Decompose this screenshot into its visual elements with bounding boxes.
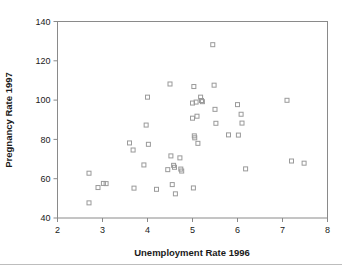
y-tick-label: 60 — [40, 174, 50, 184]
data-point-marker — [191, 186, 195, 190]
data-point-marker — [214, 121, 218, 125]
data-point-marker — [146, 142, 150, 146]
x-tick-label: 8 — [325, 225, 330, 235]
data-point-marker — [244, 167, 248, 171]
chart-canvas: 406080100120140 2345678 Unemployment Rat… — [0, 0, 342, 268]
data-point-marker — [195, 114, 199, 118]
data-point-marker — [87, 171, 91, 175]
data-points-layer — [87, 43, 306, 205]
data-point-marker — [192, 85, 196, 89]
data-point-marker — [285, 98, 289, 102]
data-point-marker — [178, 156, 182, 160]
x-tick-label: 3 — [100, 225, 105, 235]
data-point-marker — [128, 141, 132, 145]
x-tick-label: 5 — [190, 225, 195, 235]
y-tick-label: 140 — [35, 17, 50, 27]
data-point-marker — [168, 82, 172, 86]
x-tick-label: 2 — [55, 225, 60, 235]
y-tick-label: 100 — [35, 95, 50, 105]
x-axis-title: Unemployment Rate 1996 — [134, 247, 250, 258]
data-point-marker — [212, 83, 216, 87]
data-point-marker — [170, 183, 174, 187]
y-axis: 406080100120140 — [35, 17, 57, 224]
data-point-marker — [239, 112, 243, 116]
data-point-marker — [146, 95, 150, 99]
scatter-plot-figure: 406080100120140 2345678 Unemployment Rat… — [0, 0, 342, 268]
x-axis: 2345678 — [55, 218, 330, 235]
y-tick-label: 40 — [40, 213, 50, 223]
data-point-marker — [169, 154, 173, 158]
data-point-marker — [302, 161, 306, 165]
data-point-marker — [166, 168, 170, 172]
data-point-marker — [227, 133, 231, 137]
x-tick-label: 6 — [235, 225, 240, 235]
data-point-marker — [144, 123, 148, 127]
data-point-marker — [196, 141, 200, 145]
data-point-marker — [211, 43, 215, 47]
data-point-marker — [290, 159, 294, 163]
y-tick-label: 120 — [35, 56, 50, 66]
y-tick-label: 80 — [40, 135, 50, 145]
data-point-marker — [240, 121, 244, 125]
data-point-marker — [142, 163, 146, 167]
data-point-marker — [87, 201, 91, 205]
data-point-marker — [173, 192, 177, 196]
x-tick-label: 4 — [145, 225, 150, 235]
data-point-marker — [131, 148, 135, 152]
data-point-marker — [132, 186, 136, 190]
data-point-marker — [236, 133, 240, 137]
data-point-marker — [191, 116, 195, 120]
data-point-marker — [236, 103, 240, 107]
data-point-marker — [96, 186, 100, 190]
data-point-marker — [213, 107, 217, 111]
y-axis-title: Pregnancy Rate 1997 — [3, 72, 14, 168]
data-point-marker — [155, 187, 159, 191]
x-tick-label: 7 — [280, 225, 285, 235]
